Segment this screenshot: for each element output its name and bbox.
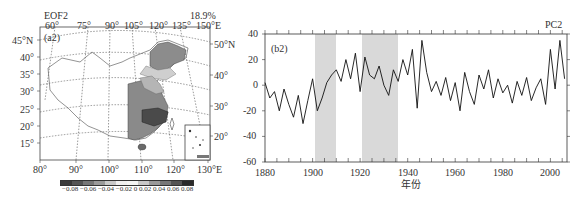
left-ticks	[37, 40, 40, 143]
pc2-timeseries-panel: PC2 (b2) 40 20 0 -20 -40 -60 1880 1900 1…	[240, 0, 575, 203]
right-lat-label: 40°	[214, 71, 228, 81]
top-lon-label: 60°	[45, 21, 59, 31]
shaded-period-1935-1950	[362, 34, 398, 162]
right-lat-label: 50°N	[214, 40, 235, 50]
x-ticks	[265, 30, 562, 162]
shaded-period-1915-1924	[315, 34, 336, 162]
bottom-ticks	[40, 160, 208, 163]
right-lat-label: 20°	[214, 132, 228, 142]
y-tick-label: -40	[243, 131, 256, 141]
x-tick-label: 1940	[398, 168, 418, 178]
colorbar-ticks: −0.08 −0.06 −0.04 −0.02 0 0.02 0.04 0.06…	[62, 186, 193, 193]
bottom-lon-label: 80°	[33, 165, 47, 175]
left-lat-label: 20°	[20, 122, 34, 132]
pc2-series-line	[265, 40, 565, 123]
left-lat-label: 25°	[20, 105, 34, 115]
left-lat-label: 40°	[20, 53, 34, 63]
left-lat-label: 30°	[20, 87, 34, 97]
x-axis-label: 年份	[401, 180, 421, 190]
y-tick-label: -60	[243, 157, 256, 167]
x-tick-label: 1920	[350, 168, 370, 178]
left-lat-label: 45°N	[12, 36, 33, 46]
x-tick-label: 1880	[255, 168, 275, 178]
x-tick-label: 1900	[303, 168, 323, 178]
bottom-lon-label: 110°	[134, 165, 153, 175]
left-lat-label: 35°	[20, 70, 34, 80]
bottom-lon-label: 120°	[166, 165, 185, 175]
panel-label-b2: (b2)	[271, 44, 288, 54]
x-tick-label: 1960	[445, 168, 465, 178]
bottom-lon-label: 100°	[100, 165, 119, 175]
y-tick-label: 40	[248, 29, 258, 39]
inset-scale	[197, 155, 209, 158]
y-tick-label: -20	[243, 106, 256, 116]
top-lon-label: 150°E	[196, 21, 221, 31]
right-ticks	[210, 44, 213, 136]
hainan-island	[138, 144, 146, 150]
top-lon-label: 90°	[105, 21, 119, 31]
right-lat-label: 30°	[214, 102, 228, 112]
panel-label-a2: (a2)	[44, 33, 60, 43]
south-china-sea-inset	[185, 125, 210, 160]
top-lon-label: 105°	[124, 21, 143, 31]
eof2-map-panel: EOF2 18.9% (a2) 60° 75° 90° 105° 120° 13…	[0, 0, 240, 203]
bottom-lon-label: 90°	[69, 165, 83, 175]
series-label-pc2: PC2	[545, 20, 562, 30]
x-tick-label: 2000	[540, 168, 560, 178]
left-lat-label: 15°	[20, 139, 34, 149]
bottom-lon-label: 130°E	[197, 165, 222, 175]
y-tick-label: 20	[248, 55, 258, 65]
top-lon-label: 120°	[149, 21, 168, 31]
top-lon-label: 75°	[77, 21, 91, 31]
y-tick-label: 0	[253, 80, 258, 90]
x-tick-label: 1980	[493, 168, 513, 178]
top-lon-label: 135°	[172, 21, 191, 31]
